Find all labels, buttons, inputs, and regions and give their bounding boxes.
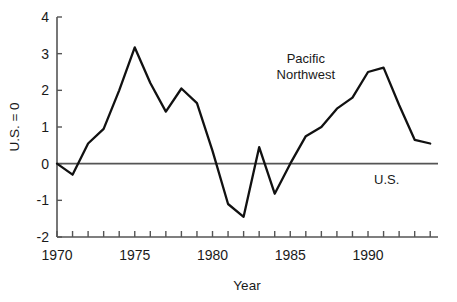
y-tick-label: -1 [37,192,50,208]
y-tick-label: 1 [41,119,49,135]
y-tick-label: 2 [41,82,49,98]
x-axis-title: Year [233,278,261,293]
x-tick-label: 1980 [197,247,228,263]
y-tick-label: -2 [37,229,50,245]
y-tick-label: 3 [41,46,49,62]
x-axis-tick-labels: 19701975198019851990 [41,247,383,263]
pacific-northwest-series-line [57,47,430,216]
y-tick-label: 0 [41,156,49,172]
y-tick-label: 4 [41,9,49,25]
pacific-northwest-label-line2: Northwest [277,67,336,82]
x-tick-label: 1990 [352,247,383,263]
x-axis: 19701975198019851990 [41,231,438,263]
y-axis-tick-labels: 43210-1-2 [37,9,50,245]
chart-annotations: Pacific Northwest U.S. [277,51,400,187]
x-tick-label: 1975 [119,247,150,263]
pacific-northwest-label-line1: Pacific [287,51,326,66]
x-tick-label: 1985 [275,247,306,263]
line-chart: 43210-1-2 19701975198019851990 Pacific N… [0,0,457,302]
us-label: U.S. [374,172,399,187]
x-tick-label: 1970 [41,247,72,263]
x-axis-ticks [57,231,430,237]
y-axis: 43210-1-2 [37,9,62,245]
plot-area [57,47,438,216]
y-axis-title: U.S. = 0 [7,102,22,151]
chart-container: 43210-1-2 19701975198019851990 Pacific N… [0,0,457,302]
